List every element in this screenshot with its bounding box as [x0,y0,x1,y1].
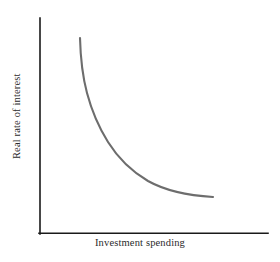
investment-demand-chart: Real rate of interest Investment spendin… [0,0,280,262]
chart-canvas [0,0,280,262]
x-axis-label: Investment spending [0,238,280,249]
y-axis-label-text: Real rate of interest [12,73,23,159]
investment-demand-curve [80,38,213,197]
y-axis-label: Real rate of interest [8,0,26,232]
